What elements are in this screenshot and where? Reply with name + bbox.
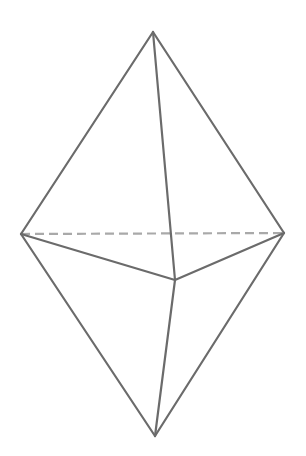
diagram-background (0, 0, 306, 456)
bipyramid-diagram (0, 0, 306, 456)
